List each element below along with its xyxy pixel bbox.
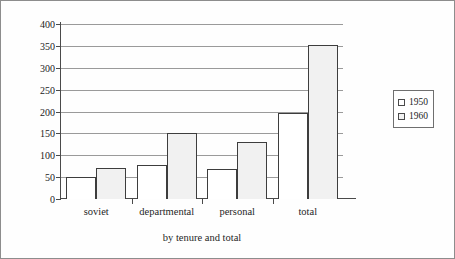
bar-total-1950[interactable] <box>278 113 308 199</box>
legend-item-1950[interactable]: 1950 <box>398 95 428 109</box>
legend-swatch-icon-1950 <box>398 99 405 106</box>
legend-item-1960[interactable]: 1960 <box>398 109 428 123</box>
legend-swatch-icon-1960 <box>398 113 405 120</box>
y-axis-tick-label: 300 <box>40 62 55 73</box>
bar-soviet-1950[interactable] <box>66 177 96 199</box>
plot-area: 400350300250200150100500 <box>61 24 343 199</box>
bar-chart-figure: housing space, 000,000 m2 40035030025020… <box>0 0 455 259</box>
x-axis-tick-mark <box>202 199 203 204</box>
bar-group-departmental <box>132 24 203 199</box>
y-axis-tick-label: 400 <box>40 19 55 30</box>
bar-personal-1960[interactable] <box>237 142 267 199</box>
y-axis-tick-label: 150 <box>40 128 55 139</box>
y-axis-tick-label: 250 <box>40 84 55 95</box>
bars-group <box>61 24 343 199</box>
x-axis-tick-label-soviet: soviet <box>61 206 132 217</box>
bar-group-total <box>273 24 344 199</box>
bar-group-personal <box>202 24 273 199</box>
x-axis-tick-label-total: total <box>273 206 344 217</box>
y-axis-tick-label: 100 <box>40 150 55 161</box>
y-axis-tick-mark <box>56 199 61 200</box>
x-axis-tick-label-departmental: departmental <box>132 206 203 217</box>
x-axis-tick-labels: sovietdepartmentalpersonaltotal <box>61 206 343 217</box>
bar-personal-1950[interactable] <box>207 169 237 199</box>
y-axis-tick-label: 350 <box>40 40 55 51</box>
bar-total-1960[interactable] <box>308 45 338 199</box>
legend-label-1960: 1960 <box>409 111 428 121</box>
legend-label-1950: 1950 <box>409 97 428 107</box>
legend: 1950 1960 <box>393 90 434 128</box>
y-axis-tick-label: 0 <box>50 194 55 205</box>
bar-departmental-1950[interactable] <box>137 165 167 199</box>
bar-group-soviet <box>61 24 132 199</box>
x-axis-tick-mark <box>132 199 133 204</box>
x-axis-tick-label-personal: personal <box>202 206 273 217</box>
y-axis-tick-label: 200 <box>40 106 55 117</box>
x-axis-title: by tenure and total <box>61 232 343 243</box>
bar-soviet-1960[interactable] <box>96 168 126 200</box>
y-axis-tick-label: 50 <box>45 172 55 183</box>
bar-departmental-1960[interactable] <box>167 133 197 199</box>
x-axis-tick-mark <box>273 199 274 204</box>
